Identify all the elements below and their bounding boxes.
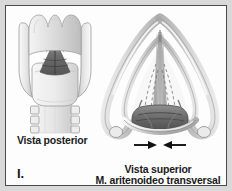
arrow-left-icon (134, 141, 157, 149)
convergence-arrows (134, 141, 186, 149)
superior-view-illustration (94, 8, 226, 158)
trachea-column (38, 105, 72, 133)
figure-index-label: I. (17, 167, 24, 181)
posterior-view-caption: Vista posterior (17, 135, 87, 146)
superior-view-caption: Vista superior M. aritenoideo transversa… (92, 164, 224, 186)
plate-frame: Vista posterior I. Vista superior M. ari… (5, 5, 227, 186)
posterior-view-illustration (12, 9, 98, 135)
arrow-right-icon (163, 141, 186, 149)
superior-view-caption-line2: M. aritenoideo transversal (92, 175, 224, 186)
posterior-larynx-svg (12, 9, 98, 135)
anatomy-plate: Vista posterior I. Vista superior M. ari… (0, 0, 232, 191)
superior-larynx-svg (94, 8, 226, 158)
superior-border-scallop (29, 15, 81, 55)
